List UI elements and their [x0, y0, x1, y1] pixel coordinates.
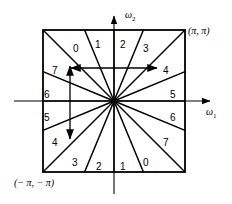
sector-label-2-upper: 2: [120, 40, 126, 50]
y-axis-label: ω2: [125, 10, 136, 23]
y-axis-label-symbol: ω: [125, 9, 132, 20]
sector-label-5-upper: 5: [170, 90, 176, 100]
sector-divider-lines: [43, 30, 185, 172]
sector-label-3-upper: 3: [143, 44, 149, 54]
corner-label-bottom-left: (− π, − π): [14, 178, 54, 188]
sector-label-2-lower: 2: [96, 162, 102, 172]
x-axis-label-subscript: 1: [213, 112, 217, 120]
sector-label-4-lower: 4: [52, 138, 58, 148]
sector-label-1-lower: 1: [120, 162, 126, 172]
sector-label-7-upper: 7: [52, 66, 58, 76]
sector-label-6-upper: 6: [44, 90, 50, 100]
sector-label-6-lower: 6: [170, 113, 176, 123]
sector-label-0-upper: 0: [73, 44, 79, 54]
sector-label-5-lower: 5: [44, 113, 50, 123]
sector-label-7-lower: 7: [163, 138, 169, 148]
y-axis-label-subscript: 2: [132, 15, 136, 23]
sector-label-4-upper: 4: [163, 66, 169, 76]
sector-label-1-upper: 1: [95, 40, 101, 50]
sector-label-0-lower: 0: [143, 158, 149, 168]
x-axis-label-symbol: ω: [206, 106, 213, 117]
sector-label-3-lower: 3: [72, 158, 78, 168]
corner-label-top-right: (π, π): [188, 26, 210, 36]
frequency-sector-diagram: ω2 ω1 (π, π) (− π, − π) 0 1 2 3 4 5 6 7 …: [0, 0, 232, 204]
x-axis-label: ω1: [206, 107, 217, 120]
